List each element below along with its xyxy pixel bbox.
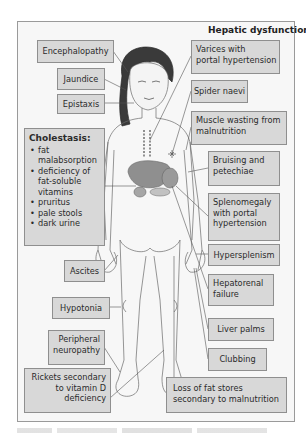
figure-caption-blurred: [17, 428, 267, 433]
label-jaundice: Jaundice: [57, 68, 105, 90]
cholestasis-box: Cholestasis: fatmalabsorption deficiency…: [24, 128, 105, 246]
label-rickets: Rickets secondary to vitamin D deficienc…: [24, 368, 111, 413]
label-text: Hypersplenism: [213, 250, 274, 261]
label-varices: Varices with portal hypertension: [191, 40, 280, 74]
label-spider-naevi: Spider naevi: [191, 80, 248, 103]
label-ascites: Ascites: [64, 260, 105, 282]
face-icon: [130, 63, 169, 110]
list-item: dark urine: [29, 218, 100, 229]
label-text: Jaundice: [64, 74, 99, 85]
label-encephalopathy: Encephalopathy: [37, 40, 114, 63]
diagram-title: Hepatic dysfunction: [208, 25, 306, 35]
list-item: pale stools: [29, 208, 100, 219]
label-text: Hypotonia: [60, 303, 102, 314]
label-loss-of-fat-stores: Loss of fat stores secondary to malnutri…: [166, 377, 287, 413]
label-text: Epistaxis: [63, 99, 100, 110]
cholestasis-list: fatmalabsorption deficiency offat-solubl…: [29, 145, 100, 229]
label-clubbing: Clubbing: [208, 348, 267, 371]
label-text: Encephalopathy: [42, 46, 108, 57]
list-item: fatmalabsorption: [29, 145, 100, 166]
label-bruising: Bruising and petechiae: [208, 151, 280, 186]
cholestasis-heading: Cholestasis:: [29, 133, 100, 144]
list-item: deficiency offat-solublevitamins: [29, 166, 100, 198]
label-hypersplenism: Hypersplenism: [208, 244, 280, 266]
label-peripheral-neuropathy: Peripheral neuropathy: [48, 330, 105, 365]
label-liver-palms: Liver palms: [208, 318, 274, 341]
label-hepatorenal: Hepatorenal failure: [208, 274, 274, 306]
label-muscle-wasting: Muscle wasting from malnutrition: [191, 111, 287, 145]
label-text: Liver palms: [217, 324, 264, 335]
label-text: Ascites: [70, 266, 99, 277]
label-splenomegaly: Splenomegaly with portal hypertension: [208, 193, 280, 241]
label-epistaxis: Epistaxis: [57, 94, 105, 114]
label-text: Spider naevi: [194, 86, 245, 97]
label-text: Clubbing: [219, 354, 255, 365]
list-item: pruritus: [29, 197, 100, 208]
liver-icon: [128, 161, 178, 197]
label-hypotonia: Hypotonia: [52, 297, 110, 319]
